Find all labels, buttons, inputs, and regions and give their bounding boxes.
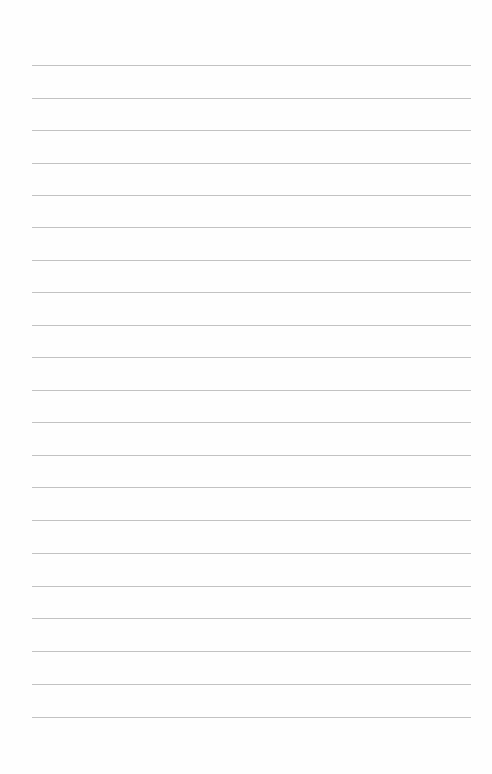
ruled-line bbox=[32, 227, 471, 228]
ruled-line bbox=[32, 455, 471, 456]
ruled-line bbox=[32, 684, 471, 685]
ruled-line bbox=[32, 520, 471, 521]
ruled-line bbox=[32, 487, 471, 488]
ruled-paper-page bbox=[0, 0, 492, 774]
ruled-line bbox=[32, 325, 471, 326]
ruled-line bbox=[32, 292, 471, 293]
ruled-line bbox=[32, 357, 471, 358]
ruled-line bbox=[32, 163, 471, 164]
ruled-line bbox=[32, 195, 471, 196]
ruled-line bbox=[32, 586, 471, 587]
ruled-line bbox=[32, 553, 471, 554]
ruled-line bbox=[32, 390, 471, 391]
ruled-line bbox=[32, 260, 471, 261]
ruled-line bbox=[32, 98, 471, 99]
ruled-line bbox=[32, 717, 471, 718]
ruled-line bbox=[32, 422, 471, 423]
ruled-line bbox=[32, 618, 471, 619]
ruled-line bbox=[32, 130, 471, 131]
ruled-line bbox=[32, 65, 471, 66]
ruled-line bbox=[32, 651, 471, 652]
